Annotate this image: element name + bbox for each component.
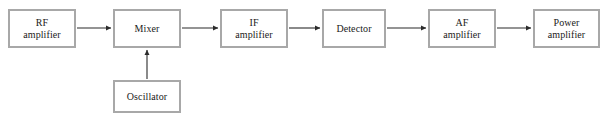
block-detector[interactable]: Detector bbox=[322, 9, 386, 48]
block-label-power-amplifier: Power amplifier bbox=[546, 17, 588, 40]
block-label-mixer: Mixer bbox=[133, 23, 162, 35]
block-if-amplifier[interactable]: IF amplifier bbox=[220, 9, 288, 48]
block-label-rf-amplifier: RF amplifier bbox=[21, 17, 63, 40]
block-oscillator[interactable]: Oscillator bbox=[113, 80, 181, 113]
block-af-amplifier[interactable]: AF amplifier bbox=[428, 9, 496, 48]
block-label-if-amplifier: IF amplifier bbox=[233, 17, 275, 40]
block-label-detector: Detector bbox=[334, 23, 373, 35]
block-mixer[interactable]: Mixer bbox=[113, 9, 181, 48]
block-diagram-canvas: RF amplifierMixerIF amplifierDetectorAF … bbox=[0, 0, 607, 132]
connector-layer bbox=[0, 0, 607, 132]
block-label-af-amplifier: AF amplifier bbox=[441, 17, 483, 40]
block-label-oscillator: Oscillator bbox=[125, 91, 169, 103]
block-rf-amplifier[interactable]: RF amplifier bbox=[8, 9, 76, 48]
block-power-amplifier[interactable]: Power amplifier bbox=[533, 9, 600, 48]
